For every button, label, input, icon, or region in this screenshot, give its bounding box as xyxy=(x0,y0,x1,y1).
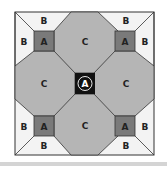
label-b-1: B xyxy=(41,16,48,26)
label-b-2: B xyxy=(123,16,130,26)
label-c-top: C xyxy=(82,37,89,47)
label-a-bl: A xyxy=(41,122,48,132)
label-a-tr: A xyxy=(122,37,129,47)
bottom-divider-band xyxy=(0,162,167,166)
label-b-6: B xyxy=(142,122,149,132)
label-a-tl: A xyxy=(41,37,48,47)
label-b-7: B xyxy=(41,141,48,151)
label-b-3: B xyxy=(21,37,28,47)
label-a-br: A xyxy=(122,122,129,132)
label-b-5: B xyxy=(21,122,28,132)
label-c-bottom: C xyxy=(82,121,89,131)
quilt-block-diagram: A A A A A C C C C B B B B B B B B xyxy=(0,0,167,171)
label-c-left: C xyxy=(41,79,48,89)
label-c-right: C xyxy=(123,79,130,89)
label-b-4: B xyxy=(142,37,149,47)
label-b-8: B xyxy=(123,141,130,151)
label-center: A xyxy=(82,79,89,89)
